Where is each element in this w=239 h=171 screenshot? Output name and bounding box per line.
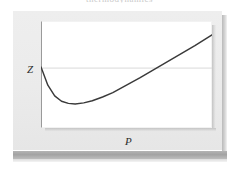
figure-container: thermodynamics Z P [0, 0, 239, 171]
chart-curve-svg [41, 21, 212, 128]
clipped-caption: thermodynamics [0, 0, 239, 3]
base-band [13, 151, 227, 159]
plot-box-bottom-shadow [45, 128, 216, 132]
x-axis-label: P [125, 136, 132, 147]
base-band-shadow [13, 159, 227, 162]
panel-right-shadow [222, 15, 227, 152]
compressibility-curve [41, 35, 212, 104]
y-axis-label: Z [27, 64, 33, 75]
plot-box-right-shadow [212, 25, 216, 132]
